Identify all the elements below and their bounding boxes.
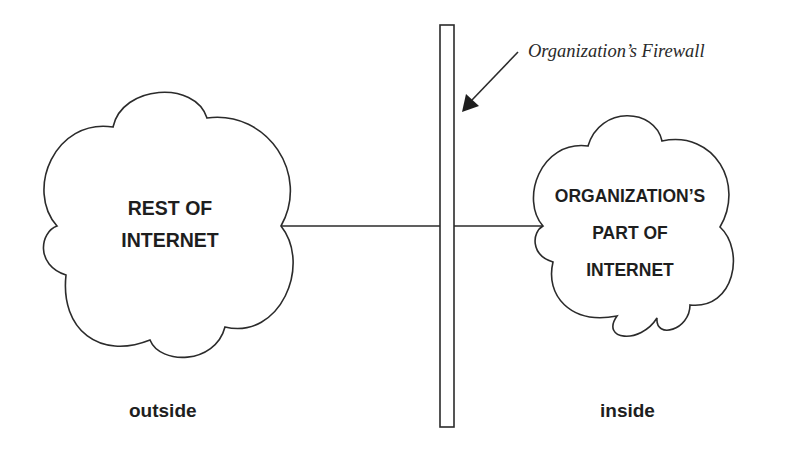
- outside-cloud-line-2: INTERNET: [95, 224, 245, 256]
- inside-cloud-line-1: ORGANIZATION’S: [530, 178, 730, 215]
- outside-zone-label: outside: [129, 400, 197, 422]
- inside-cloud-label: ORGANIZATION’S PART OF INTERNET: [530, 178, 730, 289]
- outside-cloud-line-1: REST OF: [95, 192, 245, 224]
- inside-zone-label: inside: [600, 400, 655, 422]
- firewall-label: Organization’s Firewall: [528, 41, 705, 62]
- firewall-arrow-head: [462, 94, 479, 112]
- firewall-diagram: Organization’s Firewall REST OF INTERNET…: [0, 0, 789, 452]
- firewall-arrow-shaft: [472, 52, 518, 100]
- firewall-bar: [440, 25, 454, 427]
- inside-cloud-line-2: PART OF: [530, 215, 730, 252]
- outside-cloud-label: REST OF INTERNET: [95, 192, 245, 256]
- inside-cloud-line-3: INTERNET: [530, 252, 730, 289]
